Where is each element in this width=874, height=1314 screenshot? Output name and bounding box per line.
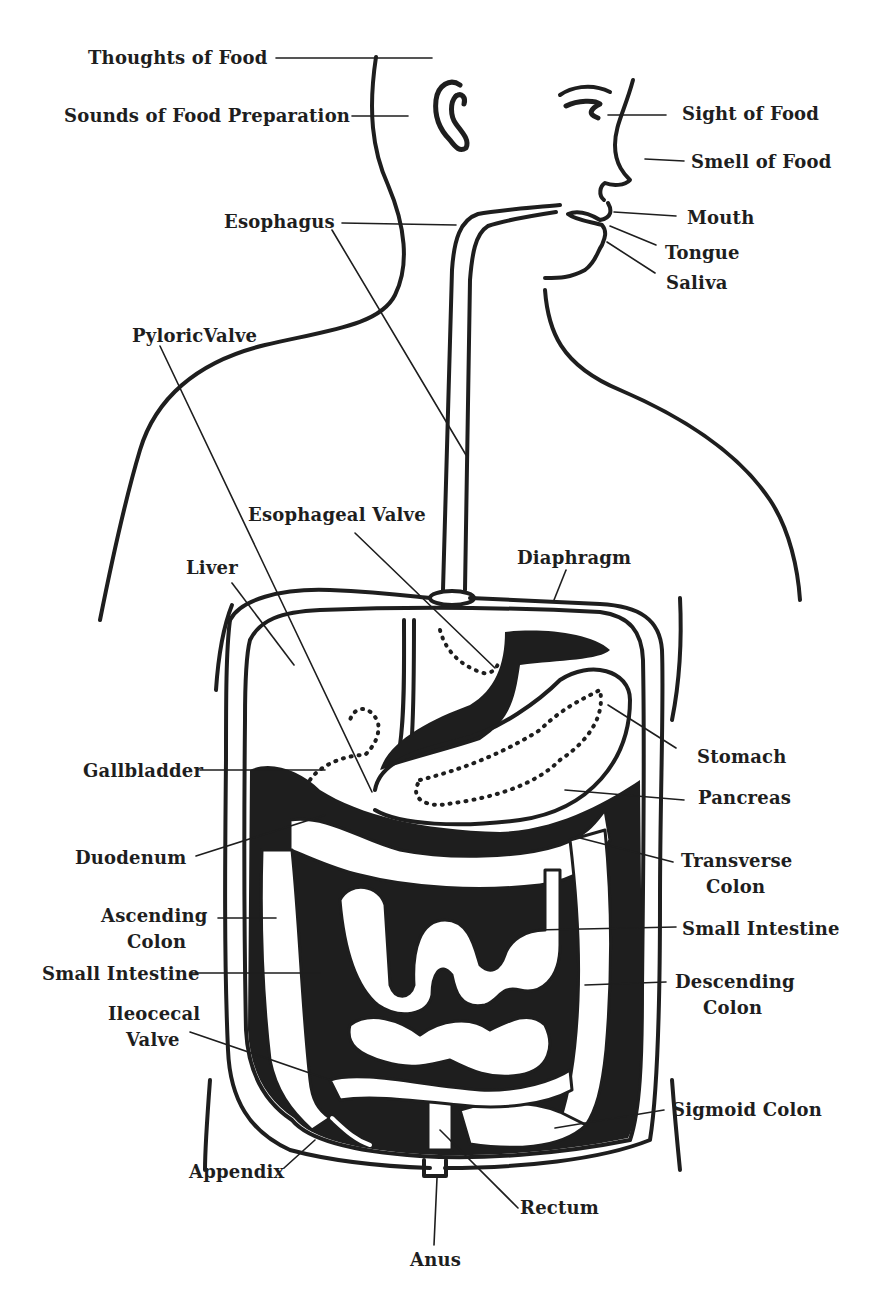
label-sounds-of-food-preparation: Sounds of Food Preparation [64,103,350,129]
label-esophageal-valve: Esophageal Valve [248,502,426,528]
label-transverse-colon-line2: Colon [706,874,765,900]
label-smell-of-food: Smell of Food [691,149,831,175]
label-sigmoid-colon: Sigmoid Colon [672,1097,822,1123]
label-ileocecal-valve-line2: Valve [126,1027,180,1053]
label-rectum: Rectum [520,1195,599,1221]
label-pancreas: Pancreas [698,785,791,811]
label-saliva: Saliva [666,270,728,296]
esophageal-valve-dotted [440,630,500,673]
label-small-intestine-left: Small Intestine [42,961,200,987]
label-descending-colon-line2: Colon [703,995,762,1021]
label-ascending-colon-line1: Ascending [101,903,208,929]
label-transverse-colon-line1: Transverse [681,848,792,874]
label-mouth: Mouth [687,205,754,231]
label-tongue: Tongue [665,240,740,266]
label-diaphragm: Diaphragm [517,545,631,571]
esophagus-tube [443,205,560,590]
label-descending-colon-line1: Descending [675,969,795,995]
label-pyloric-valve: PyloricValve [132,323,257,349]
label-anus: Anus [410,1247,461,1273]
label-liver: Liver [186,555,238,581]
label-ileocecal-valve-line1: Ileocecal [108,1001,200,1027]
label-stomach: Stomach [697,744,786,770]
label-small-intestine-right: Small Intestine [682,916,840,942]
digestive-system-diagram: Thoughts of Food Sounds of Food Preparat… [0,0,874,1314]
label-sight-of-food: Sight of Food [682,101,819,127]
liver-stomach-divider [400,620,414,745]
label-gallbladder: Gallbladder [83,758,203,784]
label-thoughts-of-food: Thoughts of Food [88,45,268,71]
label-esophagus: Esophagus [224,209,335,235]
ear [436,82,467,149]
label-ascending-colon-line2: Colon [127,929,186,955]
label-duodenum: Duodenum [75,845,187,871]
label-appendix: Appendix [189,1159,284,1185]
